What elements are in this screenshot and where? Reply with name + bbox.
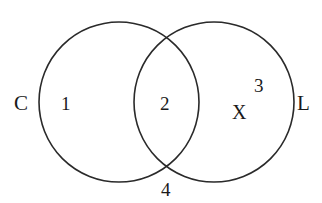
set-label-l: L <box>297 91 310 115</box>
set-label-c: C <box>14 91 28 115</box>
circle-l <box>134 22 294 182</box>
region-label-only-l: 3 <box>254 75 264 96</box>
region-label-intersection: 2 <box>160 93 170 114</box>
region-label-only-c: 1 <box>61 93 71 114</box>
region-label-outside: 4 <box>161 179 171 200</box>
venn-diagram: C L 1 2 3 4 X <box>0 0 322 203</box>
marker-x: X <box>232 101 247 123</box>
